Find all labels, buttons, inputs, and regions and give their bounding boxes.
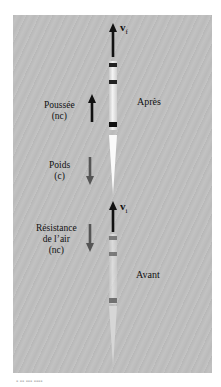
weight-type: (c) xyxy=(49,171,70,182)
rocket-band xyxy=(109,63,117,67)
air-resistance-label: Résistance de l’air (nc) xyxy=(36,223,77,256)
final-velocity-label: vf xyxy=(120,22,128,38)
air-resistance-arrow-icon xyxy=(86,224,94,252)
rocket-band xyxy=(109,298,117,303)
weight-arrow-icon xyxy=(86,157,94,185)
air-resistance-name: Résistance xyxy=(36,223,77,234)
before-label: Avant xyxy=(136,269,160,280)
thrust-type: (nc) xyxy=(44,111,75,122)
after-label: Après xyxy=(137,96,161,107)
vector-subscript-f: f xyxy=(126,28,128,36)
rocket-band xyxy=(109,122,117,127)
rocket-band xyxy=(109,252,117,256)
rocket-band xyxy=(109,236,117,240)
air-resistance-name-line2: de l’air xyxy=(36,234,77,245)
thrust-arrow-icon xyxy=(88,94,96,122)
initial-velocity-arrow-icon xyxy=(109,201,117,232)
rocket-after xyxy=(109,61,117,130)
figure-caption: ▪ ▪▪ ▪▪▪ ▪▪▪▪ xyxy=(16,378,42,384)
initial-velocity-label: vi xyxy=(120,201,127,217)
weight-name: Poids xyxy=(49,160,70,171)
thrust-label: Poussée (nc) xyxy=(44,100,75,122)
rocket-band xyxy=(109,80,117,84)
vector-subscript-i: i xyxy=(126,207,128,215)
rocket-exhaust-faint xyxy=(109,306,117,366)
rocket-before xyxy=(109,234,117,304)
weight-label: Poids (c) xyxy=(49,160,70,182)
air-resistance-type: (nc) xyxy=(36,245,77,256)
final-velocity-arrow-icon xyxy=(109,23,117,57)
rocket-exhaust xyxy=(109,135,117,195)
thrust-name: Poussée xyxy=(44,100,75,111)
